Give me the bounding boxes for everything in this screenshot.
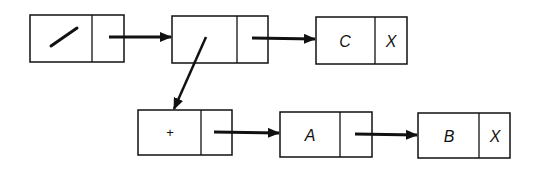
node-5-value: A: [304, 127, 316, 144]
node-3: C X: [316, 17, 407, 64]
node-3-value: C: [339, 33, 351, 50]
arrow-icon-n5-n6: [355, 134, 417, 135]
node-3-null-marker: X: [385, 33, 398, 50]
slash-icon: [51, 28, 77, 46]
arrow-icon-n2-n4: [174, 37, 206, 109]
arrow-icon-n4-n5: [214, 132, 279, 133]
arrow-icon-n2-n3: [252, 38, 315, 39]
node-6-null-marker: X: [489, 128, 502, 145]
node-6-value: B: [444, 128, 455, 145]
node-6: B X: [418, 113, 510, 158]
linked-list-diagram: C X + A B X: [0, 0, 535, 170]
node-4-value: +: [166, 125, 174, 140]
